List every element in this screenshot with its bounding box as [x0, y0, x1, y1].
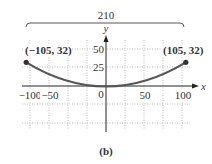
x-tick-0: 0 — [98, 88, 104, 100]
figure-caption: (b) — [99, 145, 113, 158]
y-axis-label: y — [103, 22, 109, 34]
point-label-right: (105, 32) — [163, 44, 204, 57]
x-axis-label: x — [200, 80, 206, 92]
endpoint-right — [183, 60, 188, 65]
x-tick-50: 50 — [140, 89, 152, 101]
parabola-chart: 210 x y 50 25 −100 −50 0 50 100 — [0, 0, 212, 164]
point-label-left: (−105, 32) — [25, 44, 72, 57]
x-tick-neg50: −50 — [41, 89, 59, 101]
x-tick-100: 100 — [175, 89, 192, 101]
y-tick-50: 50 — [93, 43, 105, 55]
endpoint-left — [24, 60, 29, 65]
span-label: 210 — [98, 9, 115, 21]
x-tick-neg100: −100 — [19, 89, 42, 101]
y-tick-25: 25 — [93, 61, 105, 73]
